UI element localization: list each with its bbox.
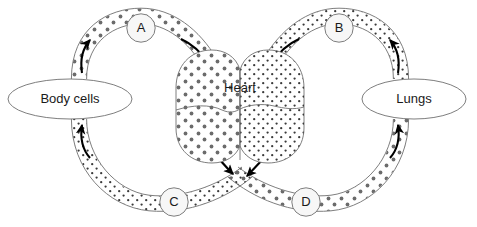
vessel-label-node-A[interactable]: A — [127, 14, 155, 42]
heart-organ[interactable]: Heart — [174, 48, 306, 166]
vessel-label-node-B[interactable]: B — [325, 14, 353, 42]
body-cells-label: Body cells — [40, 91, 100, 106]
vessel-label-node-D[interactable]: D — [292, 188, 320, 216]
body-cells-organ[interactable]: Body cells — [8, 79, 132, 119]
vessel-label-D: D — [301, 194, 310, 209]
vessel-label-node-C[interactable]: C — [160, 188, 188, 216]
lungs-label: Lungs — [396, 91, 432, 106]
vessel-label-B: B — [335, 20, 344, 35]
vessel-label-C: C — [169, 194, 178, 209]
heart-label: Heart — [224, 80, 256, 95]
lungs-organ[interactable]: Lungs — [362, 79, 466, 119]
diagram-canvas: A B C — [0, 0, 477, 227]
circulation-diagram: A B C — [0, 0, 477, 227]
vessel-label-A: A — [137, 20, 146, 35]
